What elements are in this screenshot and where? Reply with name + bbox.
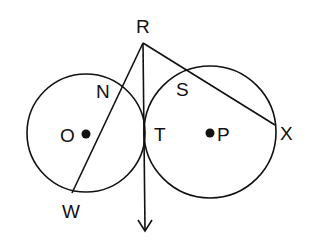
label-S: S <box>176 79 189 100</box>
center-point-P <box>206 129 215 138</box>
center-point-O <box>82 130 91 139</box>
label-P: P <box>217 124 230 145</box>
tangent-ray-RT <box>143 43 145 230</box>
label-R: R <box>136 16 150 37</box>
label-X: X <box>280 123 293 144</box>
label-N: N <box>96 81 110 102</box>
label-T: T <box>154 124 166 145</box>
label-W: W <box>62 201 80 222</box>
label-O: O <box>60 125 75 146</box>
geometry-diagram: R N S O T P X W <box>0 0 313 243</box>
